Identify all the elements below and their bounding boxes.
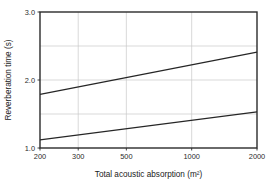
reverberation-time-chart: 20030050010002000 1.02.03.0 Total acoust…	[0, 0, 276, 183]
x-tick-label: 2000	[249, 152, 265, 161]
y-tick-label: 1.0	[25, 144, 35, 153]
chart-figure: 20030050010002000 1.02.03.0 Total acoust…	[0, 0, 276, 183]
x-tick-label: 300	[72, 152, 84, 161]
x-tick-label: 1000	[183, 152, 199, 161]
x-tick-label: 200	[34, 152, 46, 161]
y-axis-title: Reverberation time (s)	[4, 39, 13, 120]
y-tick-label: 2.0	[25, 76, 35, 85]
y-tick-label: 3.0	[25, 8, 35, 17]
x-axis-title: Total acoustic absorption (m²)	[95, 170, 203, 179]
x-tick-label: 500	[120, 152, 132, 161]
